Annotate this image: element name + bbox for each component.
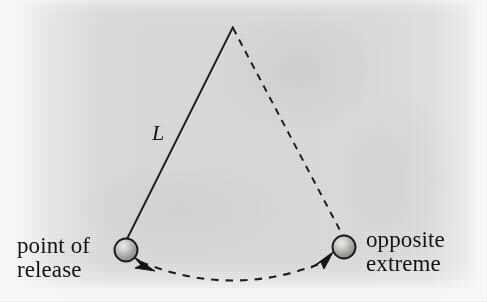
- pendulum-bob-release: [115, 239, 138, 262]
- pendulum-string-solid: [126, 27, 233, 241]
- pendulum-bob-extreme: [333, 236, 356, 259]
- label-pendulum-length: L: [152, 122, 164, 145]
- pendulum-figure: point of release opposite extreme L: [0, 0, 487, 302]
- pendulum-string-dashed: [233, 28, 343, 236]
- label-opposite-extreme: opposite extreme: [366, 228, 445, 276]
- swing-direction-arrow-right: [311, 252, 333, 269]
- swing-direction-arrow-left: [133, 256, 155, 271]
- label-point-of-release: point of release: [17, 234, 90, 282]
- swing-path-arc: [141, 260, 329, 281]
